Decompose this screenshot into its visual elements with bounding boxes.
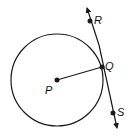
geometry-diagram: R Q P S [0,0,129,138]
label-r: R [94,14,102,26]
point-q [100,65,105,70]
label-q: Q [105,60,114,72]
point-r [88,19,93,24]
radius-pq [57,67,102,80]
point-p [55,78,60,83]
point-s [111,111,116,116]
label-p: P [45,84,53,96]
label-s: S [117,106,125,118]
tangent-line-rs-lower [99,45,117,128]
